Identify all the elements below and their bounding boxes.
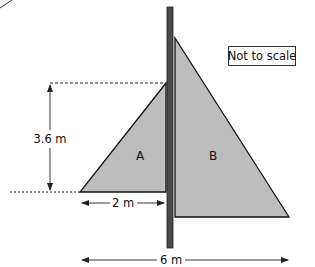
width-a-label: 2 m: [112, 196, 134, 210]
triangle-a: [80, 83, 166, 192]
triangle-a-label: A: [136, 149, 145, 163]
not-to-scale-note: Not to scale: [228, 46, 296, 66]
triangle-b-label: B: [209, 149, 217, 163]
total-width-label: 6 m: [160, 253, 182, 267]
pole: [167, 7, 173, 248]
height-label: 3.6 m: [33, 132, 66, 146]
corner-arc: [0, 0, 12, 8]
sail-diagram: 3.6 m 2 m 6 m A B: [0, 0, 315, 267]
